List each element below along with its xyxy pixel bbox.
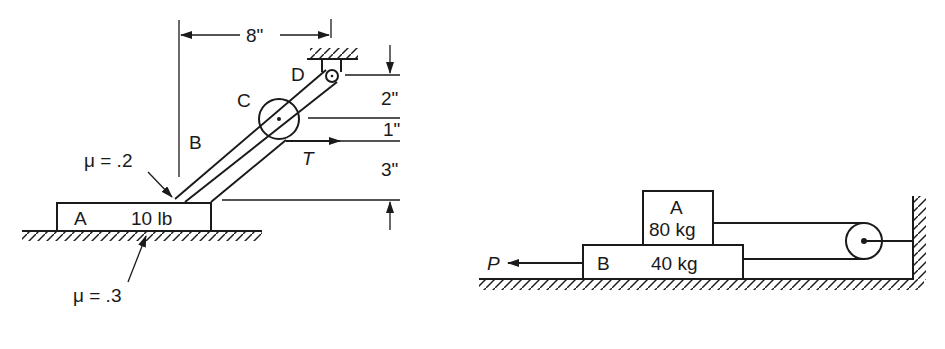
right-figure: B 40 kg A 80 kg P — [479, 191, 926, 290]
friction-bar-block: μ = .2 — [84, 150, 172, 197]
bar-label: B — [189, 132, 202, 153]
svg-text:2": 2" — [381, 88, 398, 109]
svg-text:A: A — [670, 197, 683, 218]
ground-right — [479, 196, 926, 290]
svg-text:8": 8" — [246, 25, 263, 46]
friction-block-ground: μ = .3 — [73, 236, 146, 306]
svg-text:P: P — [487, 253, 500, 274]
pull-force-arrow: P — [487, 253, 583, 274]
svg-text:μ = .2: μ = .2 — [84, 150, 132, 171]
svg-text:1": 1" — [383, 119, 400, 140]
svg-text:μ = .3: μ = .3 — [73, 285, 121, 306]
block-a-weight: 10 lb — [131, 208, 172, 229]
dimension-vertical: 2" 1" 3" — [222, 45, 400, 230]
pulley-label: C — [237, 90, 251, 111]
pulley-c — [259, 99, 299, 139]
svg-text:T: T — [302, 148, 315, 169]
pin-label: D — [291, 64, 305, 85]
ceiling-support — [307, 48, 358, 72]
diagram-canvas: A 10 lb 8" — [0, 0, 945, 349]
svg-text:40 kg: 40 kg — [651, 253, 697, 274]
svg-text:80 kg: 80 kg — [649, 219, 695, 240]
svg-text:B: B — [597, 253, 610, 274]
dimension-horizontal: 8" — [181, 19, 331, 46]
svg-text:3": 3" — [381, 159, 398, 180]
ground-left — [22, 231, 262, 241]
left-figure: A 10 lb 8" — [22, 19, 400, 306]
block-a-label: A — [74, 208, 87, 229]
